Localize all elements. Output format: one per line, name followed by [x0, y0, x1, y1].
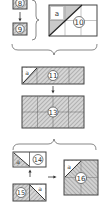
step-8-label: 8 [18, 0, 22, 8]
brace-icon [13, 139, 96, 150]
step-16-corner-label: a [67, 163, 71, 170]
step-14-block: a 14 [13, 152, 46, 167]
step-10-block: a 10 [49, 5, 97, 36]
step-8-block: 8 [13, 0, 27, 9]
step-11-label: 11 [49, 72, 58, 80]
step-15-label: 15 [17, 189, 25, 197]
brace-icon [12, 44, 97, 55]
step-11-corner-label: a [25, 69, 29, 76]
step-9-label: 9 [18, 26, 22, 34]
assembly-diagram: 8 9 a 10 a 11 [0, 0, 105, 208]
step-13-block: 13 [22, 96, 84, 128]
step-14-label: 14 [34, 156, 42, 164]
step-16-block: a 16 [64, 160, 98, 195]
step-13-label: 13 [49, 109, 58, 117]
step-9-block: 9 [13, 23, 27, 35]
step-15-corner-label: a [38, 185, 42, 192]
step-16-label: 16 [77, 175, 86, 183]
step-10-label: 10 [74, 18, 84, 27]
step-14-corner-label: a [16, 158, 20, 165]
step-15-block: 15 a [13, 184, 46, 201]
step-10-corner-label: a [55, 10, 59, 18]
brace-icon [32, 0, 39, 40]
step-11-block: a 11 [22, 67, 84, 84]
